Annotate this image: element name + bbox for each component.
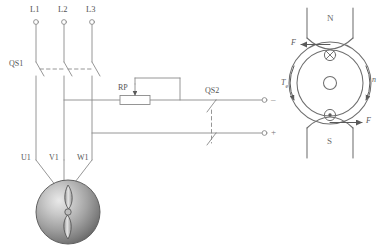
label-qs1[interactable]: QS1 [9, 60, 23, 68]
label-qs2[interactable]: QS2 [205, 87, 219, 95]
dc-terminal-positive [262, 131, 267, 136]
label-force-upper: F [291, 39, 296, 47]
label-force-lower: F [366, 117, 371, 125]
label-l2: L2 [58, 5, 67, 14]
label-pole-n: N [327, 14, 334, 23]
label-l1: L1 [30, 5, 39, 14]
torque-subscript: e [285, 83, 288, 89]
supply-terminal-l2 [62, 20, 67, 25]
rotor-hub [65, 209, 71, 215]
motor-body [36, 180, 100, 244]
label-speed: n [372, 76, 376, 84]
label-rp[interactable]: RP [118, 84, 128, 92]
label-l3: L3 [86, 5, 95, 14]
label-v1: V1 [49, 154, 59, 162]
shaft [324, 77, 337, 90]
dc-terminal-negative [262, 98, 267, 103]
label-w1: W1 [77, 154, 89, 162]
label-u1: U1 [21, 154, 31, 162]
diagram-svg [0, 0, 390, 249]
armature-inner [297, 50, 363, 116]
label-dc-negative: – [271, 95, 276, 104]
lead-u1-to-motor [36, 160, 56, 186]
label-pole-s: S [327, 137, 332, 146]
supply-terminal-l1 [34, 20, 39, 25]
rheostat-body [120, 96, 150, 105]
qs1-blade-3 [92, 62, 100, 76]
armature-outer [289, 42, 371, 124]
label-torque: Te [281, 79, 288, 89]
diagram-canvas: L1 L2 L3 QS1 RP QS2 – + U1 V1 W1 N S F F… [0, 0, 390, 249]
supply-terminal-l3 [90, 20, 95, 25]
conductor-dot [328, 113, 331, 116]
n-pole-face [307, 38, 353, 49]
label-dc-positive: + [271, 128, 276, 137]
